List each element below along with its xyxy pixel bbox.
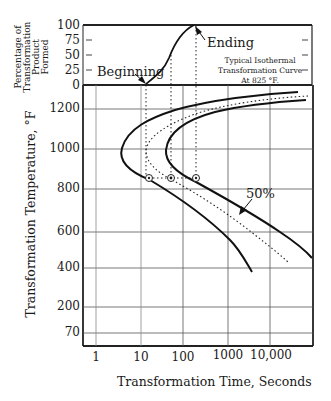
xtick-10000: 10,000 [241,348,301,362]
top-ytick-100: 100 [40,18,80,32]
top-ytick-25: 25 [40,63,80,77]
ytick-1000: 1000 [40,141,80,155]
projection-dotted-lines [146,26,196,178]
ytick-1200: 1200 [40,101,80,115]
fifty-percent-label: 50% [246,186,275,201]
note-line-3: At 825 °F. [205,76,315,86]
ytick-600: 600 [40,224,80,238]
note-line-1: Typical Isothermal [205,56,315,66]
curve-note: Typical Isothermal Transformation Curve … [205,56,315,86]
ytick-70: 70 [40,325,80,339]
top-ytick-0: 0 [40,78,80,92]
ytick-400: 400 [40,260,80,274]
ytick-800: 800 [40,181,80,195]
main-plot-grid [83,85,313,346]
top-ytick-50: 50 [40,48,80,62]
main-ylabel: Transformation Temperature, °F [23,118,38,318]
transformation-end-curve [166,100,312,258]
beginning-label: Beginning [97,64,164,79]
ytick-200: 200 [40,299,80,313]
note-line-2: Transformation Curve [205,66,315,76]
ending-arrow-icon [195,26,205,40]
main-xlabel: Transformation Time, Seconds [117,374,312,389]
top-ytick-75: 75 [40,33,80,47]
ending-label: Ending [207,35,254,50]
transformation-start-curve [121,92,298,272]
